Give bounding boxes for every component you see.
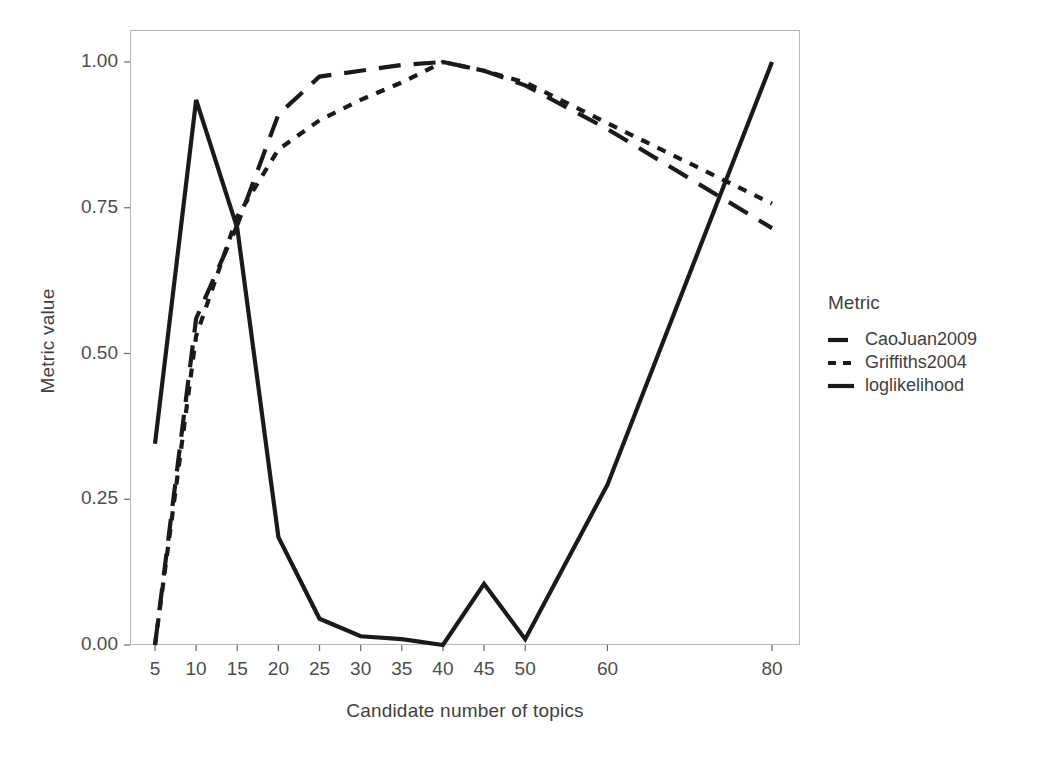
legend-item-label: CaoJuan2009 — [865, 329, 977, 350]
legend-entries: CaoJuan2009Griffiths2004loglikelihood — [826, 328, 1036, 397]
legend-item-caojuan2009[interactable]: CaoJuan2009 — [826, 328, 1036, 351]
y-tick-label: 0.50 — [48, 342, 118, 364]
legend-item-label: Griffiths2004 — [865, 352, 967, 373]
y-tick-label: 0.75 — [48, 196, 118, 218]
y-tick-label: 0.00 — [48, 633, 118, 655]
y-tick-label: 1.00 — [48, 50, 118, 72]
x-tick-marks — [155, 645, 772, 651]
dotted-line-key — [826, 354, 856, 372]
x-axis-title: Candidate number of topics — [130, 700, 800, 722]
solid-line-key — [826, 377, 856, 395]
chart-figure: Metric value Candidate number of topics … — [0, 0, 1039, 757]
legend-item-label: loglikelihood — [865, 375, 964, 396]
legend-item-griffiths2004[interactable]: Griffiths2004 — [826, 351, 1036, 374]
legend-item-loglikelihood[interactable]: loglikelihood — [826, 374, 1036, 397]
y-tick-label: 0.25 — [48, 487, 118, 509]
legend: Metric CaoJuan2009Griffiths2004loglikeli… — [826, 292, 1036, 397]
panel-background — [130, 30, 800, 645]
x-tick-label: 80 — [742, 658, 802, 680]
y-tick-marks — [124, 62, 130, 645]
x-tick-label: 60 — [577, 658, 637, 680]
dashed-line-key — [826, 331, 856, 349]
legend-title: Metric — [828, 292, 1036, 314]
x-tick-label: 50 — [495, 658, 555, 680]
